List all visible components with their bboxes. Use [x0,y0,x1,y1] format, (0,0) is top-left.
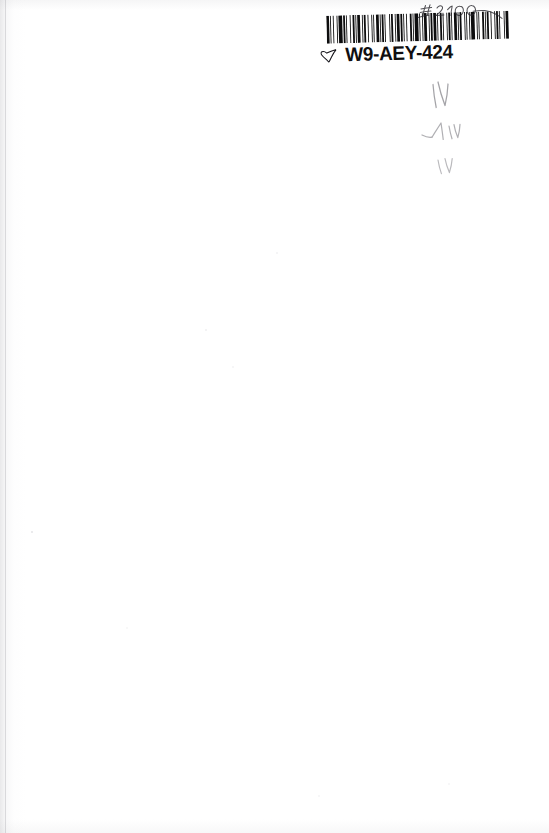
pencil-mark-middle [420,118,472,152]
scan-bottom-shadow [0,819,549,833]
scan-speckle [232,366,234,368]
barcode-sticker: W9-AEY-424 [318,4,520,72]
hand-pointing-glyph-icon [320,48,337,63]
scan-speckle [318,795,320,797]
pencil-mark-upper [424,78,468,120]
scan-gutter-shadow [0,0,26,833]
scan-speckle [448,783,450,785]
scan-speckle [205,329,207,331]
scanned-page: W9-AEY-424 [0,0,549,833]
scan-speckle [126,627,128,629]
scan-gutter-line [5,0,6,833]
scan-speckle [276,252,278,254]
sticker-label-row: W9-AEY-424 [319,37,520,69]
pencil-mark-lower [432,154,466,182]
barcode-label-text: W9-AEY-424 [345,43,453,65]
scan-speckle [31,531,33,533]
